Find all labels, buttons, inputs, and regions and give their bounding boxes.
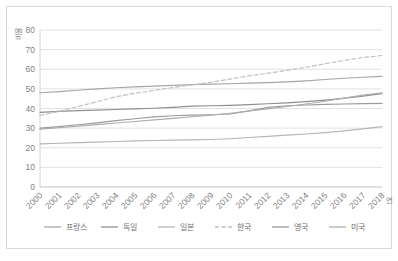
x-axis-tick-label: 2001 [43,190,64,211]
y-axis-tick-label: 30 [26,123,36,133]
x-axis-tick-label: 2004 [100,190,121,211]
y-axis-tick-label: 70 [26,45,36,55]
x-axis-tick-label: 2014 [290,190,311,211]
x-axis-tick-label: 2015 [309,190,330,211]
x-axis-tick-label: 2008 [176,190,197,211]
x-axis-tick-label: 2016 [328,190,349,211]
legend-label-3: 한국 [237,223,251,232]
chart-frame: 01020304050607080비율200020012002200320042… [6,6,392,249]
x-axis-tick-label: 2009 [195,190,216,211]
legend-label-1: 독일 [123,223,137,232]
x-axis-tick-label: 2018 [366,190,387,211]
legend-label-5: 미국 [351,223,365,232]
chart-screenshot: 01020304050607080비율200020012002200320042… [0,0,398,261]
series-line-0 [40,76,382,92]
x-axis-tick-label: 2006 [138,190,159,211]
y-axis-tick-label: 50 [26,84,36,94]
legend-label-4: 영국 [294,222,308,232]
x-axis-tick-label: 2017 [347,190,368,211]
x-axis-tick-label: 2007 [157,190,178,211]
x-axis-tick-label: 2003 [81,190,102,211]
x-axis-tick-label: 2011 [233,190,253,210]
series-line-4 [40,103,382,128]
series-line-3 [40,56,382,116]
x-axis-tick-label: 2012 [252,190,273,211]
y-axis-tick-label: 60 [26,64,36,74]
y-axis-tick-label: 10 [26,162,36,172]
y-axis-tick-label: 0 [30,182,35,192]
legend-label-2: 일본 [180,223,194,232]
x-axis-tick-label: 2010 [214,190,235,211]
legend-label-0: 프랑스 [66,222,87,232]
y-axis-tick-label: 80 [26,25,36,35]
y-axis-title: 비율 [14,27,23,40]
x-axis-tick-label: 2013 [271,190,292,211]
x-axis-tick-label: 2005 [119,190,140,211]
x-axis-title: 연도 [386,197,393,204]
series-line-2 [40,127,382,144]
x-axis-tick-label: 2000 [24,190,45,211]
y-axis-tick-label: 40 [26,104,36,114]
y-axis-tick-label: 20 [26,143,36,153]
line-chart-plot: 01020304050607080비율200020012002200320042… [7,7,393,250]
x-axis-tick-label: 2002 [62,190,83,211]
